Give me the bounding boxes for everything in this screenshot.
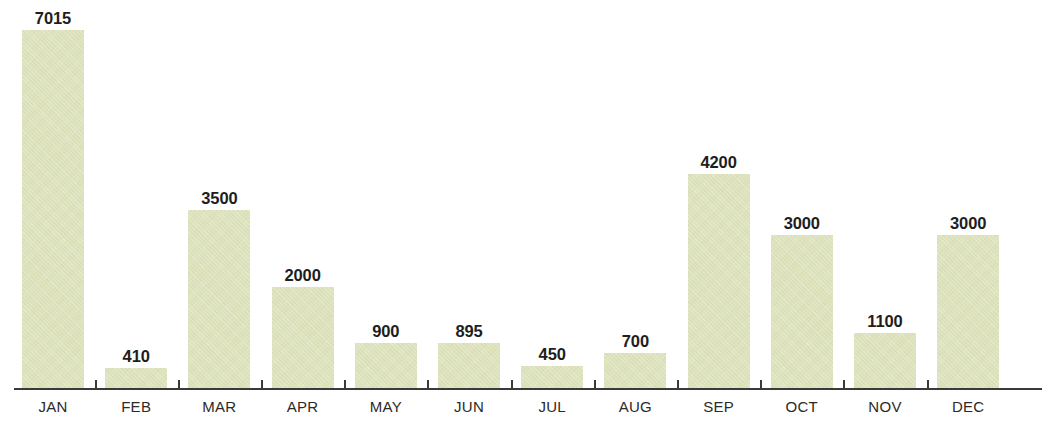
category-label-jan: JAN bbox=[8, 396, 98, 418]
bar-rect-feb[interactable] bbox=[105, 368, 167, 389]
bar-aug[interactable]: 700 bbox=[604, 0, 666, 389]
plot-area: 7015410350020009008954507004200300011003… bbox=[0, 0, 1054, 389]
category-label-may: MAY bbox=[341, 396, 431, 418]
category-label-nov: NOV bbox=[840, 396, 930, 418]
bar-oct[interactable]: 3000 bbox=[771, 0, 833, 389]
bar-value-label-dec: 3000 bbox=[950, 215, 986, 232]
bar-nov[interactable]: 1100 bbox=[854, 0, 916, 389]
bar-apr[interactable]: 2000 bbox=[272, 0, 334, 389]
bar-rect-oct[interactable] bbox=[771, 235, 833, 389]
bar-value-label-sep: 4200 bbox=[700, 154, 736, 171]
bar-rect-jun[interactable] bbox=[438, 343, 500, 389]
bar-value-label-nov: 1100 bbox=[867, 313, 902, 330]
bar-rect-apr[interactable] bbox=[272, 287, 334, 389]
axis-tick-9 bbox=[760, 380, 762, 389]
category-label-sep: SEP bbox=[674, 396, 764, 418]
category-label-dec: DEC bbox=[923, 396, 1013, 418]
axis-tick-6 bbox=[511, 380, 513, 389]
axis-tick-2 bbox=[178, 380, 180, 389]
axis-tick-10 bbox=[843, 380, 845, 389]
category-label-aug: AUG bbox=[590, 396, 680, 418]
bar-rect-jul[interactable] bbox=[521, 366, 583, 389]
axis-tick-8 bbox=[677, 380, 679, 389]
axis-tick-3 bbox=[261, 380, 263, 389]
category-label-feb: FEB bbox=[91, 396, 181, 418]
bar-jun[interactable]: 895 bbox=[438, 0, 500, 389]
bar-jul[interactable]: 450 bbox=[521, 0, 583, 389]
bar-value-label-jan: 7015 bbox=[35, 10, 71, 27]
category-label-jul: JUL bbox=[507, 396, 597, 418]
bar-value-label-jun: 895 bbox=[455, 323, 482, 340]
axis-tick-1 bbox=[95, 380, 97, 389]
bar-rect-jan[interactable] bbox=[22, 30, 84, 389]
bar-value-label-jul: 450 bbox=[539, 346, 566, 363]
bar-value-label-mar: 3500 bbox=[201, 190, 237, 207]
category-label-apr: APR bbox=[258, 396, 348, 418]
bar-rect-dec[interactable] bbox=[937, 235, 999, 389]
axis-tick-7 bbox=[594, 380, 596, 389]
axis-tick-4 bbox=[344, 380, 346, 389]
bar-rect-sep[interactable] bbox=[688, 174, 750, 389]
bar-chart: 7015410350020009008954507004200300011003… bbox=[0, 0, 1054, 440]
axis-tick-5 bbox=[427, 380, 429, 389]
category-label-mar: MAR bbox=[174, 396, 264, 418]
bar-value-label-oct: 3000 bbox=[784, 215, 820, 232]
axis-tick-11 bbox=[927, 380, 929, 389]
x-axis-baseline bbox=[14, 388, 1042, 390]
category-label-oct: OCT bbox=[757, 396, 847, 418]
bar-sep[interactable]: 4200 bbox=[688, 0, 750, 389]
bar-value-label-may: 900 bbox=[372, 323, 399, 340]
category-label-jun: JUN bbox=[424, 396, 514, 418]
bar-value-label-apr: 2000 bbox=[284, 267, 320, 284]
bar-jan[interactable]: 7015 bbox=[22, 0, 84, 389]
bar-rect-aug[interactable] bbox=[604, 353, 666, 389]
bar-value-label-feb: 410 bbox=[123, 348, 150, 365]
bar-feb[interactable]: 410 bbox=[105, 0, 167, 389]
bar-may[interactable]: 900 bbox=[355, 0, 417, 389]
bar-rect-may[interactable] bbox=[355, 343, 417, 389]
x-axis-category-labels: JANFEBMARAPRMAYJUNJULAUGSEPOCTNOVDEC bbox=[0, 396, 1054, 426]
bar-value-label-aug: 700 bbox=[622, 333, 649, 350]
bar-rect-nov[interactable] bbox=[854, 333, 916, 389]
bar-dec[interactable]: 3000 bbox=[937, 0, 999, 389]
bar-mar[interactable]: 3500 bbox=[188, 0, 250, 389]
bar-rect-mar[interactable] bbox=[188, 210, 250, 389]
